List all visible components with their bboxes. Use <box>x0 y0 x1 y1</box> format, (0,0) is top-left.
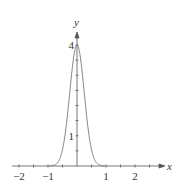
y-axis-label: y <box>73 16 79 28</box>
tick-labels: −2−11214 <box>13 39 138 182</box>
x-axis-label: x <box>166 160 172 172</box>
x-axis-arrow-icon <box>159 164 165 168</box>
x-tick-label: 1 <box>103 170 109 182</box>
chart: −2−11214 x y <box>0 0 185 186</box>
x-tick-label: −1 <box>42 170 54 182</box>
axes <box>12 32 165 168</box>
x-tick-label: −2 <box>13 170 25 182</box>
x-tick-label: 2 <box>132 170 138 182</box>
y-tick-label: 1 <box>69 130 75 142</box>
y-tick-label: 4 <box>69 39 75 51</box>
y-axis-arrow-icon <box>75 32 79 38</box>
